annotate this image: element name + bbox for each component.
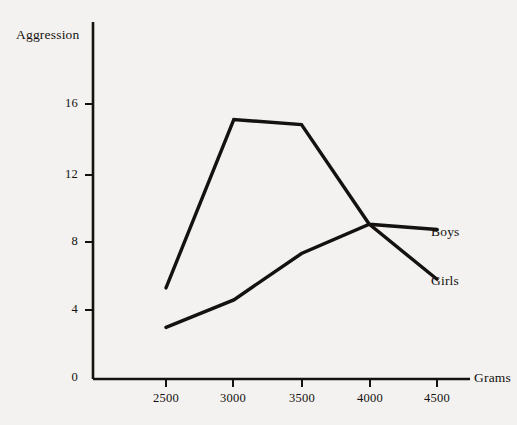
y-tick-label-8: 8	[38, 234, 78, 249]
y-tick-label-12: 12	[38, 167, 78, 182]
x-tick-label-3500: 3500	[272, 391, 332, 406]
y-tick-label-16: 16	[38, 96, 78, 111]
series-line-boys	[166, 120, 437, 288]
aggression-vs-grams-line-chart: Aggression Grams 16 12 8 4 0 2500 3000 3…	[0, 0, 517, 425]
chart-plot-area	[0, 0, 517, 425]
x-tick-label-4500: 4500	[407, 391, 467, 406]
x-axis-title: Grams	[474, 370, 511, 386]
x-tick-label-3000: 3000	[203, 391, 263, 406]
y-tick-label-0: 0	[38, 370, 78, 385]
y-axis-title: Aggression	[16, 27, 80, 43]
x-tick-label-2500: 2500	[136, 391, 196, 406]
y-tick-label-4: 4	[38, 302, 78, 317]
series-label-boys: Boys	[431, 224, 460, 240]
x-tick-label-4000: 4000	[340, 391, 400, 406]
series-line-girls	[166, 224, 437, 327]
series-label-girls: Girls	[431, 273, 459, 289]
